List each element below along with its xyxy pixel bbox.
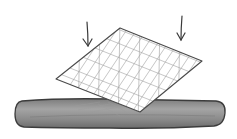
down-arrow-icon: [177, 16, 185, 40]
down-arrow-icon: [83, 22, 92, 46]
mesh-press-illustration: [0, 0, 237, 139]
illustration-canvas: [0, 0, 237, 139]
